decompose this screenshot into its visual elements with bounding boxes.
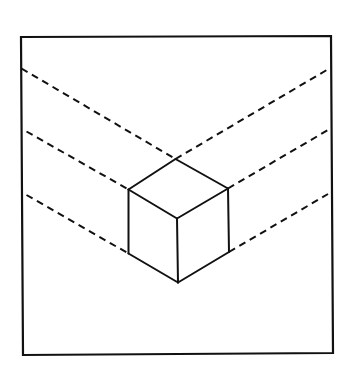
square-frame xyxy=(21,36,333,355)
cube-edge-left-bottom-to-bottom xyxy=(129,254,179,283)
cube-edge-left-top-to-center xyxy=(129,190,178,219)
cube-edge-top-to-left-top xyxy=(129,159,176,190)
dashed-line-middle-left xyxy=(27,132,129,190)
cube-edge-right-top-to-right-bottom xyxy=(228,189,229,253)
isometric-cube xyxy=(129,159,230,283)
cube-edge-right-bottom-to-bottom xyxy=(178,252,229,283)
dashed-line-upper-left xyxy=(22,69,176,160)
cube-edge-top-to-right-top xyxy=(176,159,229,189)
cube-edge-right-top-to-center xyxy=(177,189,228,219)
dashed-line-upper-right xyxy=(176,68,332,160)
cube-edge-center-to-bottom xyxy=(177,219,178,283)
dashed-line-lower-right xyxy=(229,194,328,252)
isometric-cube-diagram xyxy=(0,0,354,375)
dashed-line-middle-right xyxy=(228,130,328,189)
dashed-line-lower-left xyxy=(27,195,129,254)
